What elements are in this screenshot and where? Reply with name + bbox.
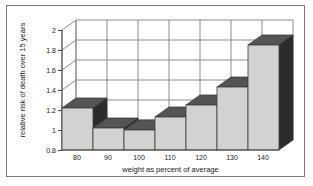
y-tick-1.6 [58, 70, 62, 71]
x-tick-label-100: 100 [127, 154, 151, 161]
y-tick-label-0: 0.8 [40, 147, 56, 154]
x-tick-label-130: 130 [220, 154, 244, 161]
y-tick-1.8 [58, 50, 62, 51]
x-tick-label-80: 80 [65, 154, 89, 161]
y-tick-label-4: 1.6 [40, 67, 56, 74]
x-tick-label-90: 90 [96, 154, 120, 161]
plot-area: 2 1.8 1.6 1.4 1.2 1 0.8 80 90 100 110 12… [0, 0, 313, 186]
y-tick-label-5: 1.8 [40, 47, 56, 54]
y-tick-label-2: 1.2 [40, 107, 56, 114]
y-tick-label-1: 1 [40, 127, 56, 134]
y-tick-1.4 [58, 90, 62, 91]
y-axis-title: relative risk of death over 15 years [18, 28, 27, 138]
y-tick-label-6: 2 [40, 27, 56, 34]
y-tick-1.2 [58, 110, 62, 111]
x-tick-label-140: 140 [251, 154, 275, 161]
x-tick-label-110: 110 [158, 154, 182, 161]
chart-figure: 2 1.8 1.6 1.4 1.2 1 0.8 80 90 100 110 12… [0, 0, 313, 186]
y-tick-label-3: 1.4 [40, 87, 56, 94]
x-tick-label-120: 120 [189, 154, 213, 161]
y-tick-2.0 [58, 30, 62, 31]
y-tick-0.8 [58, 150, 62, 151]
bar-140[interactable] [248, 35, 293, 150]
x-axis-title: weight as percent of average [62, 165, 279, 174]
y-tick-1.0 [58, 130, 62, 131]
